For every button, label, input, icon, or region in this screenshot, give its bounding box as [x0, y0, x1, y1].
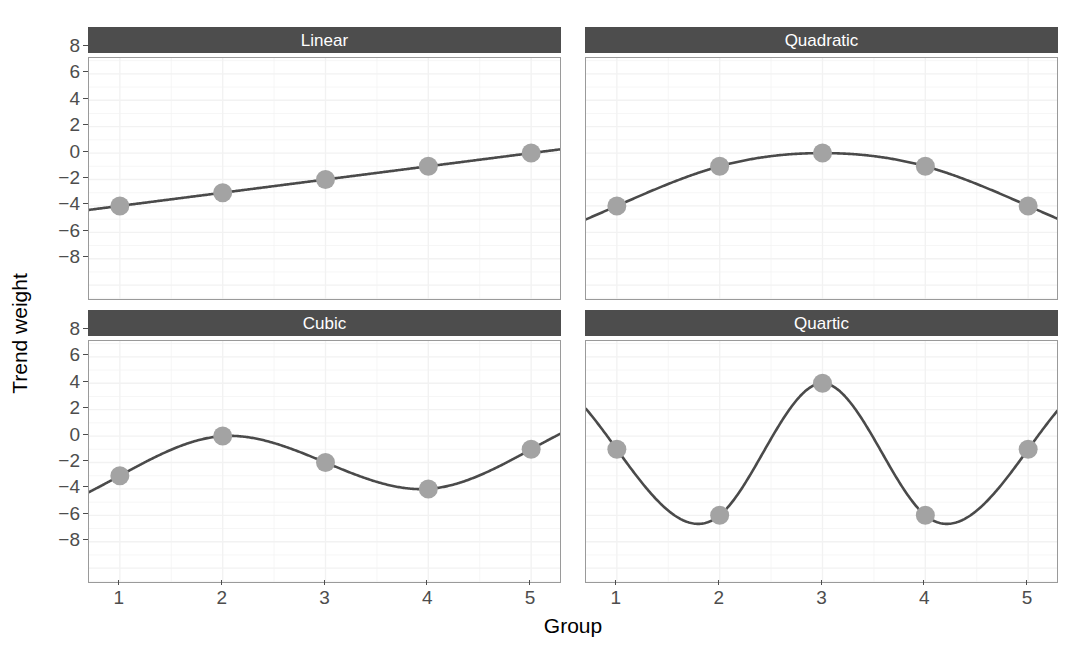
plot-svg-linear [89, 58, 561, 300]
y-axis-tick-label: 0 [69, 424, 80, 446]
x-axis-tick-label: 4 [904, 587, 944, 609]
panel-strip-label: Cubic [303, 315, 346, 332]
plot-area-quartic [585, 340, 1058, 583]
x-axis-tick-mark [615, 580, 616, 585]
x-axis-tick-mark [718, 580, 719, 585]
x-axis-tick-label: 2 [202, 587, 242, 609]
x-axis-tick-mark [821, 580, 822, 585]
x-axis-tick-mark [426, 580, 427, 585]
panel-quartic: Quartic [585, 310, 1058, 583]
x-axis-left-column: 12345 [88, 580, 561, 614]
plot-area-cubic [88, 340, 561, 583]
panel-quadratic: Quadratic [585, 27, 1058, 300]
y-axis-bottom-row: 86420−2−4−6−8 [0, 283, 88, 667]
y-axis-tick-label: −6 [58, 220, 80, 242]
x-axis-tick-mark [923, 580, 924, 585]
panel-strip-label: Quartic [794, 315, 849, 332]
y-axis-tick-label: 6 [69, 344, 80, 366]
x-axis-tick-label: 2 [699, 587, 739, 609]
plot-svg-quartic [586, 341, 1058, 583]
y-axis-tick-label: 2 [69, 397, 80, 419]
x-axis-tick-label: 5 [510, 587, 550, 609]
y-axis-tick-label: −8 [58, 529, 80, 551]
panel-linear: Linear [88, 27, 561, 300]
x-axis-right-column: 12345 [585, 580, 1058, 614]
y-axis-tick-label: −4 [58, 476, 80, 498]
orthogonal-polynomial-trend-chart: Trend weight 86420−2−4−6−8 86420−2−4−6−8… [0, 0, 1069, 667]
panel-strip-linear: Linear [88, 27, 561, 53]
panel-cubic: Cubic [88, 310, 561, 583]
x-axis-tick-mark [221, 580, 222, 585]
x-axis-title: Group [88, 614, 1058, 638]
x-axis-tick-mark [529, 580, 530, 585]
y-axis-tick-label: −2 [58, 167, 80, 189]
y-axis-tick-label: −4 [58, 193, 80, 215]
panel-strip-label: Quadratic [785, 32, 859, 49]
x-axis-tick-mark [118, 580, 119, 585]
x-axis-tick-label: 4 [407, 587, 447, 609]
x-axis-tick-label: 3 [305, 587, 345, 609]
panel-strip-cubic: Cubic [88, 310, 561, 336]
plot-svg-quadratic [586, 58, 1058, 300]
y-axis-tick-label: −8 [58, 246, 80, 268]
y-axis-tick-label: 2 [69, 114, 80, 136]
plot-area-quadratic [585, 57, 1058, 300]
y-axis-tick-label: 8 [69, 318, 80, 340]
plot-svg-cubic [89, 341, 561, 583]
panel-strip-quadratic: Quadratic [585, 27, 1058, 53]
x-axis-tick-label: 3 [802, 587, 842, 609]
x-axis-tick-label: 5 [1007, 587, 1047, 609]
plot-area-linear [88, 57, 561, 300]
y-axis-tick-label: −2 [58, 450, 80, 472]
y-axis-tick-label: 0 [69, 141, 80, 163]
panel-strip-label: Linear [301, 32, 348, 49]
y-axis-tick-label: 4 [69, 88, 80, 110]
panel-strip-quartic: Quartic [585, 310, 1058, 336]
y-axis-tick-label: 6 [69, 61, 80, 83]
x-axis-tick-label: 1 [99, 587, 139, 609]
x-axis-tick-label: 1 [596, 587, 636, 609]
x-axis-tick-mark [324, 580, 325, 585]
y-axis-tick-label: 4 [69, 371, 80, 393]
facet-panel-grid: Linear Quadratic Cubic Quartic [88, 27, 1058, 580]
x-axis-tick-mark [1026, 580, 1027, 585]
y-axis-tick-label: −6 [58, 503, 80, 525]
y-axis-tick-label: 8 [69, 35, 80, 57]
